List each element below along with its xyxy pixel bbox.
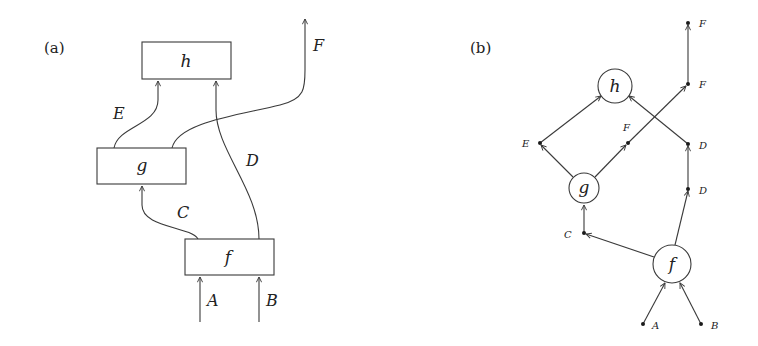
wire-c-label: C — [177, 203, 189, 222]
wire-c — [142, 186, 198, 239]
box-h-label: h — [181, 51, 192, 71]
edge-d-h — [629, 96, 688, 144]
point-f-top — [686, 21, 690, 25]
point-f-mid — [626, 141, 630, 145]
edge-e-h — [540, 96, 601, 143]
wire-d-label: D — [245, 151, 259, 170]
node-g-label: g — [579, 177, 590, 197]
panel-b-label: (b) — [470, 39, 491, 57]
box-g-label: g — [137, 155, 148, 175]
point-d-lower — [686, 187, 690, 191]
edge-g-e — [541, 145, 573, 177]
point-b — [699, 322, 703, 326]
panel-b: (b) h g f E F F F D — [470, 18, 718, 331]
point-d-upper — [686, 142, 690, 146]
edge-f-d — [675, 191, 688, 245]
point-f-top-label: F — [698, 18, 707, 29]
point-f-right — [686, 82, 690, 86]
point-a — [641, 322, 645, 326]
wire-a-label: A — [205, 291, 219, 310]
wire-f — [172, 19, 305, 148]
edge-f-c — [586, 234, 654, 257]
diagram-canvas: (a) h g f A B C D E F (b) — [0, 0, 758, 346]
point-d-lower-label: D — [698, 185, 707, 196]
edge-a-f — [643, 283, 665, 324]
point-b-label: B — [710, 320, 718, 331]
point-a-label: A — [651, 320, 659, 331]
node-h-label: h — [610, 76, 621, 96]
wire-f-label: F — [312, 36, 325, 55]
point-c-label: C — [564, 229, 572, 240]
point-c — [582, 231, 586, 235]
panel-a-label: (a) — [44, 39, 65, 57]
edge-g-f — [595, 145, 626, 177]
wire-e-label: E — [112, 104, 125, 123]
point-f-mid-label: F — [622, 122, 631, 133]
edge-f-f — [628, 86, 686, 143]
point-e — [538, 141, 542, 145]
point-d-upper-label: D — [698, 140, 707, 151]
edge-b-f — [680, 283, 701, 324]
point-e-label: E — [521, 138, 530, 149]
point-f-right-label: F — [698, 79, 707, 90]
panel-a: (a) h g f A B C D E F — [44, 19, 325, 322]
wire-b-label: B — [265, 291, 278, 310]
